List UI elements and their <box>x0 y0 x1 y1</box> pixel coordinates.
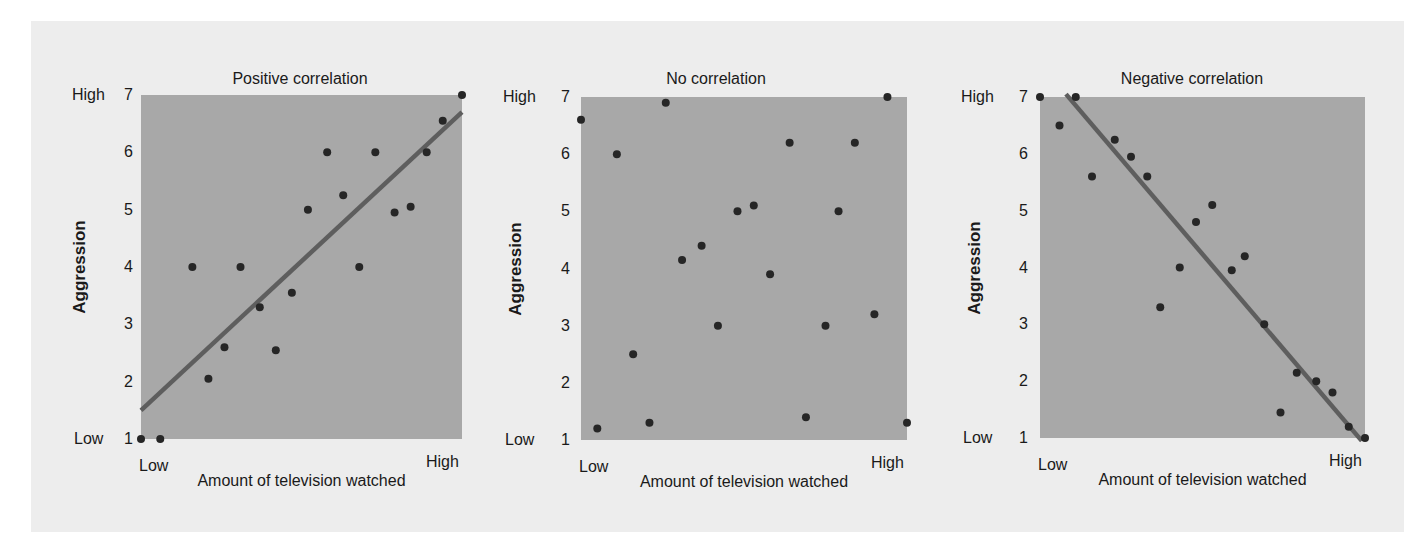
data-point <box>1056 121 1064 129</box>
data-point <box>1156 303 1164 311</box>
data-point <box>1176 264 1184 272</box>
data-point <box>1127 153 1135 161</box>
data-point <box>1088 173 1096 181</box>
data-point <box>1312 377 1320 385</box>
data-point <box>1208 201 1216 209</box>
scatter-layer <box>0 0 1419 541</box>
data-point <box>1192 218 1200 226</box>
data-point <box>1277 408 1285 416</box>
data-point <box>1072 93 1080 101</box>
data-point <box>1143 173 1151 181</box>
data-point <box>1345 423 1353 431</box>
data-point <box>1260 320 1268 328</box>
data-point <box>1036 93 1044 101</box>
data-point <box>1329 389 1337 397</box>
data-point <box>1361 434 1369 442</box>
data-point <box>1228 266 1236 274</box>
data-point <box>1241 252 1249 260</box>
data-point <box>1293 369 1301 377</box>
data-point <box>1111 136 1119 144</box>
trend-line <box>1066 94 1362 441</box>
